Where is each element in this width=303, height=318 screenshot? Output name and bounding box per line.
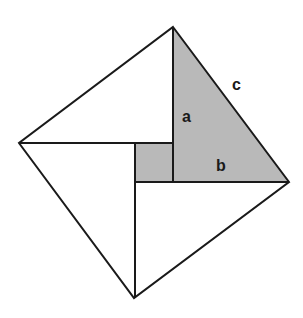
shaded-inner-square	[135, 143, 173, 182]
label-c: c	[232, 76, 241, 93]
label-b: b	[216, 157, 226, 174]
label-a: a	[182, 108, 191, 125]
pythagorean-proof-diagram: a b c	[0, 0, 303, 318]
